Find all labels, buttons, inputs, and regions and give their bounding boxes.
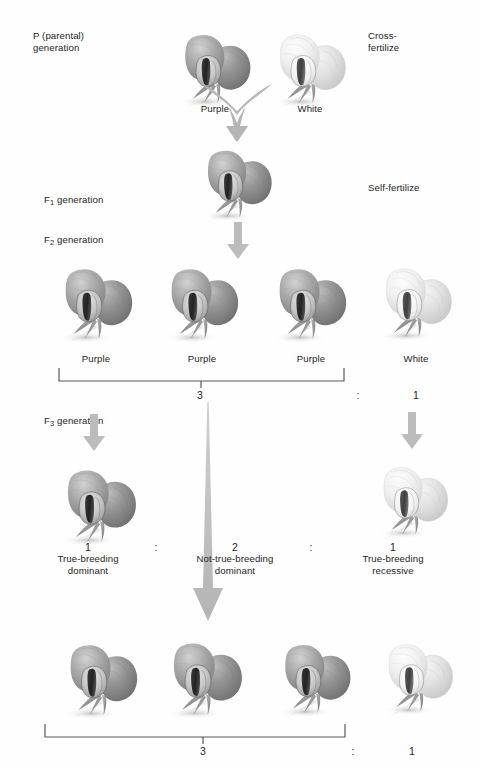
f3-bottom-ratio-left-number: 3 (200, 745, 206, 757)
f3-bottom-flower-1 (55, 632, 149, 726)
f2-ratio-bracket (50, 366, 356, 388)
f3-left-number: 1 (85, 541, 91, 553)
f2-ratio-colon: : (357, 389, 360, 401)
f3-flower-left (52, 457, 148, 553)
f2-flower-4 (371, 256, 463, 348)
f2-ratio-right-number: 1 (413, 389, 419, 401)
f2-flower-1-label: Purple (82, 353, 110, 365)
cross-fertilize-label: Cross- fertilize (368, 30, 399, 55)
f3-colon-1: : (155, 541, 158, 553)
f2-flower-1 (50, 256, 144, 350)
f2-flower-2 (156, 256, 250, 350)
f3-bottom-ratio-bracket (38, 722, 358, 744)
f3-right-arrow (399, 412, 425, 450)
p-white-flower-label: White (297, 103, 322, 115)
f3-left-caption: True-breeding dominant (57, 553, 118, 578)
figure-canvas: P (parental) generation F1 generation F2… (0, 0, 480, 769)
f3-bottom-ratio-colon: : (352, 745, 355, 757)
cross-fertilize-arrow (196, 82, 280, 146)
f1-label-suffix: generation (54, 194, 103, 205)
self-fertilize-label: Self-fertilize (368, 182, 420, 194)
f3-bottom-flower-4 (374, 632, 464, 722)
self-fertilize-arrow (225, 222, 251, 260)
f3-left-arrow (81, 414, 107, 452)
f3-flower-right (369, 455, 459, 545)
f3-right-caption: True-breeding recessive (362, 553, 423, 578)
f3-bottom-ratio-right-number: 1 (409, 745, 415, 757)
f1-purple-flower (193, 138, 283, 228)
f1-generation-label: F1 generation (33, 182, 103, 222)
f3-bottom-flower-3 (270, 632, 362, 724)
f2-flower-3-label: Purple (297, 353, 325, 365)
f3-bottom-flower-2 (158, 630, 254, 726)
f2-flower-2-label: Purple (188, 353, 216, 365)
f2-label-suffix: generation (54, 234, 103, 245)
f3-middle-caption: Not-true-breeding dominant (197, 553, 274, 578)
f2-ratio-left-number: 3 (197, 389, 203, 401)
f2-flower-3 (264, 256, 358, 350)
f3-middle-number: 2 (232, 541, 238, 553)
f2-flower-4-label: White (403, 353, 428, 365)
p-generation-label: P (parental) generation (33, 30, 84, 55)
f3-colon-2: : (310, 541, 313, 553)
f3-right-number: 1 (390, 541, 396, 553)
f3-center-tapered-arrow (186, 402, 230, 624)
